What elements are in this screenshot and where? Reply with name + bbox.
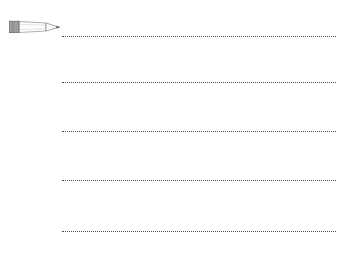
writing-line-1 (62, 36, 336, 37)
writing-line-2 (62, 82, 336, 83)
writing-line-3 (62, 131, 336, 132)
pencil-lead-point (57, 26, 60, 28)
pencil-icon (8, 18, 62, 36)
pencil-barrel (19, 22, 46, 33)
writing-line-4 (62, 180, 336, 181)
pencil-icon-glyph (8, 18, 62, 36)
writing-line-5 (62, 231, 336, 232)
worksheet-canvas (0, 0, 342, 265)
pencil-ferrule (10, 21, 20, 32)
